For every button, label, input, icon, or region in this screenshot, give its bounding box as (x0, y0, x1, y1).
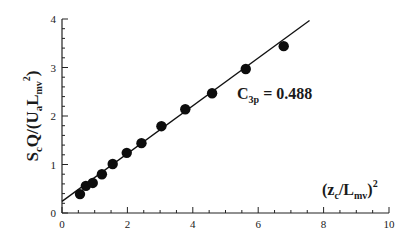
data-point (136, 138, 146, 148)
data-point (156, 121, 166, 131)
x-tick-label: 6 (255, 218, 261, 230)
y-tick-label: 1 (51, 159, 57, 171)
x-tick-label: 0 (59, 218, 65, 230)
data-points (75, 41, 289, 199)
data-point (279, 41, 289, 51)
data-point (180, 104, 190, 114)
chart: 024681001234 ScQ/(UaLmv2) (zc/Lmv)2 C3p … (0, 0, 416, 244)
y-tick-label: 2 (51, 110, 57, 122)
data-point (207, 88, 217, 98)
x-tick-label: 4 (190, 218, 196, 230)
x-tick-label: 10 (384, 218, 396, 230)
y-tick-label: 4 (51, 13, 57, 25)
data-point (97, 169, 107, 179)
data-point (122, 148, 132, 158)
y-tick-label: 0 (51, 207, 57, 219)
y-tick-label: 3 (51, 62, 57, 74)
y-axis-title: ScQ/(UaLmv2) (21, 70, 44, 161)
x-axis-title: (zc/Lmv)2 (322, 178, 378, 201)
slope-annotation: C3p = 0.488 (237, 85, 312, 105)
x-tick-label: 2 (125, 218, 131, 230)
x-tick-label: 8 (321, 218, 327, 230)
data-point (241, 64, 251, 74)
data-point (88, 178, 98, 188)
data-point (107, 159, 117, 169)
